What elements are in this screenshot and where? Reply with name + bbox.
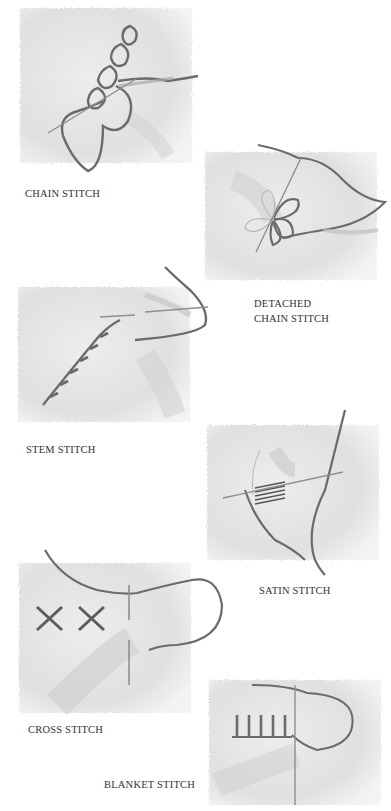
- detached-chain-stitch-illustration: [203, 140, 391, 280]
- satin-stitch-label: SATIN STITCH: [259, 583, 331, 598]
- blanket-stitch-label: BLANKET STITCH: [104, 777, 195, 792]
- chain-stitch-illustration: [18, 6, 193, 176]
- cross-stitch-label: CROSS STITCH: [28, 722, 103, 737]
- cross-stitch-illustration: [17, 545, 227, 720]
- satin-stitch-illustration: [205, 410, 391, 580]
- stem-stitch-illustration: [15, 265, 210, 425]
- stem-stitch-label: STEM STITCH: [26, 442, 96, 457]
- detached-chain-label-line-1: DETACHED: [254, 296, 329, 311]
- detached-chain-stitch-label: DETACHED CHAIN STITCH: [254, 296, 329, 326]
- detached-chain-label-line-2: CHAIN STITCH: [254, 311, 329, 326]
- chain-stitch-label: CHAIN STITCH: [25, 186, 100, 201]
- blanket-stitch-illustration: [207, 675, 387, 811]
